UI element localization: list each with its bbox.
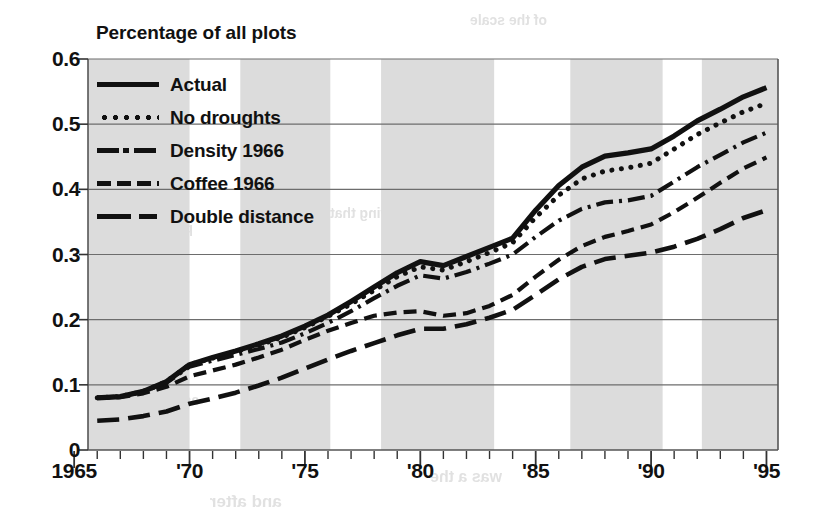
y-tick-label-2: 0.4 (6, 177, 80, 201)
legend-line-sample (97, 82, 159, 87)
legend-label: Coffee 1966 (170, 173, 274, 195)
legend-swatch-longdash-icon (97, 210, 159, 224)
chart-figure: Percentage of all plots 0.60.50.40.30.20… (0, 0, 818, 522)
x-tick-label-3: '80 (407, 459, 434, 483)
y-tick-label-0: 0.6 (6, 47, 80, 71)
legend-line-sample (97, 181, 159, 186)
legend-label: Actual (170, 74, 227, 96)
legend-swatch-dashdot-icon (97, 144, 159, 158)
y-tick-label-1: 0.5 (6, 112, 80, 136)
x-tick-label-0: 1965 (52, 459, 97, 483)
y-tick-label-4: 0.2 (6, 308, 80, 332)
y-tick-label-3: 0.3 (6, 243, 80, 267)
x-tick-label-1: '70 (176, 459, 203, 483)
legend-label: No droughts (170, 107, 281, 129)
x-tick-label-5: '90 (637, 459, 664, 483)
legend-swatch-solid-icon (97, 78, 159, 92)
legend-label: Double distance (170, 206, 314, 228)
legend-swatch-dashed-icon (97, 177, 159, 191)
y-tick-label-5: 0.1 (6, 373, 80, 397)
legend-line-sample (97, 115, 159, 120)
legend-item-coffee-1966: Coffee 1966 (97, 167, 314, 200)
legend-label: Density 1966 (170, 140, 284, 162)
x-tick-label-6: '95 (753, 459, 780, 483)
legend-line-sample (97, 214, 159, 219)
chart-legend: ActualNo droughtsDensity 1966Coffee 1966… (97, 68, 314, 233)
x-tick-label-2: '75 (291, 459, 318, 483)
legend-line-sample (97, 148, 159, 153)
x-tick-label-4: '85 (522, 459, 549, 483)
legend-item-density-1966: Density 1966 (97, 134, 314, 167)
legend-swatch-dotted-icon (97, 111, 159, 125)
legend-item-double-distance: Double distance (97, 200, 314, 233)
legend-item-no-droughts: No droughts (97, 101, 314, 134)
legend-item-actual: Actual (97, 68, 314, 101)
